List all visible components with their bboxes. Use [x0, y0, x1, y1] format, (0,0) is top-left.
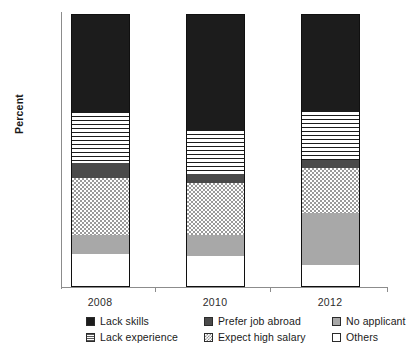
y-tick-100: 100	[0, 14, 1, 15]
x-axis-line	[61, 287, 388, 288]
legend-item-lack-experience[interactable]: Lack experience	[86, 331, 204, 343]
bar-2012[interactable]	[301, 14, 360, 287]
segment-2010-lack-experience[interactable]	[186, 130, 245, 174]
legend-item-lack-skills[interactable]: Lack skills	[86, 315, 204, 327]
bar-2010[interactable]	[186, 14, 245, 287]
legend-swatch-lack-skills-icon	[86, 317, 95, 326]
chart-legend: Lack skills Prefer job abroad No applica…	[86, 313, 386, 345]
segment-2012-lack-skills[interactable]	[301, 14, 360, 111]
segment-2010-expect-high-salary[interactable]	[186, 183, 245, 235]
legend-swatch-lack-experience-icon	[86, 333, 95, 342]
segment-2012-expect-high-salary[interactable]	[301, 168, 360, 213]
bar-2008[interactable]	[71, 14, 130, 287]
legend-swatch-others-icon	[332, 333, 341, 342]
x-axis-label-2008: 2008	[60, 296, 140, 308]
segment-2010-no-applicant[interactable]	[186, 235, 245, 256]
x-tick-mark	[387, 287, 388, 292]
y-tick-20: 20	[0, 232, 1, 233]
segment-2012-no-applicant[interactable]	[301, 213, 360, 265]
legend-item-no-applicant[interactable]: No applicant	[332, 315, 406, 327]
segment-2008-expect-high-salary[interactable]	[71, 178, 130, 235]
legend-label: Lack skills	[100, 315, 149, 327]
legend-label: Prefer job abroad	[218, 315, 301, 327]
segment-2010-prefer-job-abroad[interactable]	[186, 174, 245, 184]
segment-2012-lack-experience[interactable]	[301, 111, 360, 160]
segment-2012-others[interactable]	[301, 265, 360, 287]
y-tick-60: 60	[0, 123, 1, 124]
x-axis-label-2012: 2012	[290, 296, 370, 308]
segment-2008-lack-skills[interactable]	[71, 14, 130, 112]
plot-area	[62, 14, 387, 287]
segment-2010-others[interactable]	[186, 256, 245, 287]
legend-swatch-expect-high-salary-icon	[204, 333, 213, 342]
legend-label: Lack experience	[100, 331, 178, 343]
legend-label: No applicant	[346, 315, 406, 327]
x-tick-mark	[155, 287, 156, 292]
segment-2010-lack-skills[interactable]	[186, 14, 245, 130]
segment-2008-prefer-job-abroad[interactable]	[71, 163, 130, 178]
legend-label: Others	[346, 331, 378, 343]
segment-2008-lack-experience[interactable]	[71, 112, 130, 163]
y-tick-0: 0	[0, 287, 1, 288]
legend-swatch-no-applicant-icon	[332, 317, 341, 326]
legend-item-prefer-job-abroad[interactable]: Prefer job abroad	[204, 315, 332, 327]
legend-label: Expect high salary	[218, 331, 306, 343]
y-tick-80: 80	[0, 69, 1, 70]
y-axis-title: Percent	[13, 59, 25, 169]
legend-item-expect-high-salary[interactable]: Expect high salary	[204, 331, 332, 343]
y-tick-40: 40	[0, 178, 1, 179]
legend-swatch-prefer-job-abroad-icon	[204, 317, 213, 326]
segment-2008-no-applicant[interactable]	[71, 235, 130, 254]
x-axis-label-2010: 2010	[175, 296, 255, 308]
segment-2008-others[interactable]	[71, 254, 130, 287]
segment-2012-prefer-job-abroad[interactable]	[301, 160, 360, 168]
legend-item-others[interactable]: Others	[332, 331, 406, 343]
x-tick-mark	[270, 287, 271, 292]
